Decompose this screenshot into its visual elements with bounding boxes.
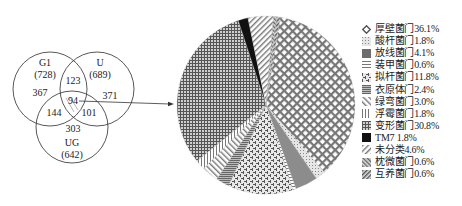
- venn-region-g1-only: 367: [33, 87, 48, 98]
- legend-label: 未分类4.6%: [375, 144, 424, 156]
- diagonal-forward-dense-icon: [362, 170, 371, 179]
- diagonal-back-icon: [362, 97, 371, 106]
- dense-horizontal-icon: [362, 85, 371, 94]
- vertical-lines-icon: [362, 109, 371, 118]
- venn-region-g1-u: 123: [66, 75, 81, 86]
- diamond-icon: [362, 25, 371, 34]
- legend-label: 衣原体门2.4%: [375, 84, 434, 96]
- horizontal-lines-icon: [362, 61, 371, 70]
- legend-label: 浮霉菌门1.8%: [375, 108, 434, 120]
- legend-item: 拟杆菌门11.8%: [362, 71, 462, 83]
- legend-item: 变形菌门30.8%: [362, 120, 462, 132]
- legend-item: TM7 1.8%: [362, 132, 462, 144]
- venn-region-ug-only: 303: [66, 123, 81, 134]
- legend-label: 装甲菌门0.6%: [375, 59, 434, 71]
- solid-black-swatch-icon: [362, 133, 371, 142]
- solid-gray-swatch-icon: [362, 49, 371, 58]
- pie-chart: [177, 16, 355, 194]
- legend-item: 衣原体门2.4%: [362, 83, 462, 95]
- venn-set-ug-name: UG: [65, 137, 79, 148]
- venn-region-u-ug: 101: [82, 107, 97, 118]
- connector-arrow: [79, 101, 174, 106]
- legend-label: 互养菌门0.6%: [375, 168, 434, 180]
- diagonal-forward-icon: [362, 145, 371, 154]
- weave-pattern-icon: [362, 73, 371, 82]
- venn-set-g1-name: G1: [39, 57, 51, 68]
- legend-label: TM7 1.8%: [375, 132, 417, 144]
- legend-label: 放线菌门4.1%: [375, 47, 434, 59]
- diagonal-back-dense-icon: [362, 158, 371, 167]
- legend-item: 未分类4.6%: [362, 144, 462, 156]
- dots-pattern-icon: [362, 37, 371, 46]
- legend-label: 拟杆菌门11.8%: [375, 71, 439, 83]
- legend-item: 装甲菌门0.6%: [362, 59, 462, 71]
- legend-item: 酸杆菌门1.8%: [362, 35, 462, 47]
- legend-item: 枕微菌门0.6%: [362, 156, 462, 168]
- legend-label: 枕微菌门0.6%: [375, 156, 434, 168]
- venn-set-u-total: (689): [89, 69, 111, 81]
- venn-region-all: 94: [68, 95, 78, 106]
- venn-region-g1-ug: 144: [47, 107, 62, 118]
- venn-region-u-only: 371: [103, 90, 118, 101]
- pie-legend: 厚壁菌门36.1% 酸杆菌门1.8% 放线菌门4.1% 装甲菌门0.6% 拟杆菌…: [362, 23, 462, 180]
- legend-item: 浮霉菌门1.8%: [362, 108, 462, 120]
- venn-set-g1-total: (728): [34, 69, 56, 81]
- legend-label: 变形菌门30.8%: [375, 120, 439, 132]
- legend-item: 互养菌门0.6%: [362, 168, 462, 180]
- legend-label: 酸杆菌门1.8%: [375, 35, 434, 47]
- legend-label: 绿弯菌门3.0%: [375, 96, 434, 108]
- legend-item: 绿弯菌门3.0%: [362, 96, 462, 108]
- legend-item: 厚壁菌门36.1%: [362, 23, 462, 35]
- legend-item: 放线菌门4.1%: [362, 47, 462, 59]
- legend-label: 厚壁菌门36.1%: [375, 23, 439, 35]
- venn-set-ug-total: (642): [61, 149, 83, 161]
- grid-pattern-icon: [362, 121, 371, 130]
- venn-set-u-name: U: [96, 57, 104, 68]
- venn-labels: G1 (728) U (689) UG (642) 367 371 303 12…: [33, 57, 118, 161]
